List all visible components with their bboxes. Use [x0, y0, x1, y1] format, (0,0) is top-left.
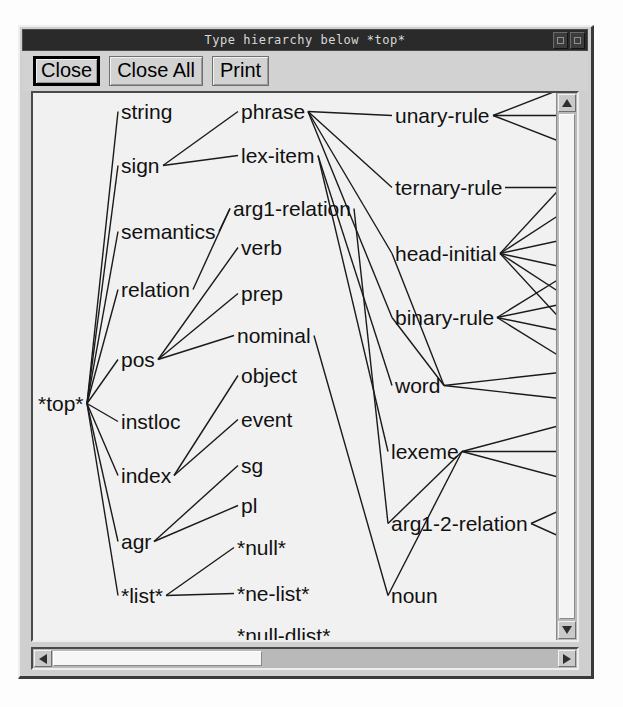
graph-edge — [493, 116, 560, 142]
graph-node-top[interactable]: *top* — [38, 393, 84, 414]
triangle-left-icon — [39, 654, 47, 664]
graph-canvas[interactable]: *top*stringsignsemanticsrelationposinstl… — [33, 93, 560, 640]
graph-edge — [308, 112, 392, 254]
graph-node-sign[interactable]: sign — [121, 155, 160, 176]
graph-edge — [314, 336, 388, 596]
window-titlebar[interactable]: Type hierarchy below *top* — [22, 29, 588, 51]
graph-edge — [493, 93, 560, 116]
maximize-icon — [574, 37, 581, 44]
graph-node-list[interactable]: *list* — [121, 585, 163, 606]
maximize-button[interactable] — [570, 32, 585, 49]
graph-edge — [87, 404, 118, 596]
graph-edge — [87, 166, 118, 404]
graph-node-null-dlist[interactable]: *null-dlist* — [237, 625, 330, 640]
graph-edge — [166, 548, 234, 596]
graph-node-object[interactable]: object — [241, 365, 297, 386]
graph-node-noun[interactable]: noun — [391, 585, 438, 606]
print-button[interactable]: Print — [212, 56, 269, 86]
graph-edge — [158, 336, 234, 360]
graph-node-lexeme[interactable]: lexeme — [391, 441, 459, 462]
graph-node-head-initial[interactable]: head-initial — [395, 243, 497, 264]
graph-node-relation[interactable]: relation — [121, 279, 190, 300]
graph-canvas-frame: *top*stringsignsemanticsrelationposinstl… — [31, 91, 579, 642]
graph-edge — [444, 386, 560, 399]
scroll-left-button[interactable] — [34, 650, 52, 667]
minimize-icon — [557, 37, 564, 44]
graph-node-index[interactable]: index — [121, 465, 171, 486]
graph-edge — [87, 404, 118, 476]
graph-node-phrase[interactable]: phrase — [241, 101, 305, 122]
graph-node-nominal[interactable]: nominal — [237, 325, 311, 346]
graph-edge — [87, 404, 118, 542]
graph-edge — [308, 112, 392, 188]
triangle-down-icon — [562, 626, 572, 634]
graph-edge — [166, 594, 234, 596]
graph-node-unary-rule[interactable]: unary-rule — [395, 105, 490, 126]
horizontal-scrollbar[interactable] — [31, 647, 579, 670]
close-button[interactable]: Close — [33, 56, 100, 86]
type-hierarchy-window: Type hierarchy below *top* Close Close A… — [18, 25, 594, 679]
graph-node-binary-rule[interactable]: binary-rule — [395, 307, 494, 328]
triangle-up-icon — [562, 99, 572, 107]
graph-node-sg[interactable]: sg — [241, 455, 263, 476]
graph-node-arg1-relation[interactable]: arg1-relation — [233, 198, 351, 219]
graph-node-event[interactable]: event — [241, 409, 292, 430]
graph-edge — [462, 452, 560, 478]
graph-node-string[interactable]: string — [121, 101, 172, 122]
graph-edge — [87, 404, 118, 422]
screenshot-root: Type hierarchy below *top* Close Close A… — [0, 0, 623, 707]
scroll-right-button[interactable] — [558, 650, 576, 667]
minimize-button[interactable] — [553, 32, 568, 49]
horizontal-scroll-thumb[interactable] — [53, 651, 262, 666]
graph-edge — [87, 290, 118, 404]
graph-node-prep[interactable]: prep — [241, 283, 283, 304]
graph-node-arg1-2-relation[interactable]: arg1-2-relation — [391, 513, 528, 534]
graph-node-null[interactable]: *null* — [237, 537, 286, 558]
graph-node-ternary-rule[interactable]: ternary-rule — [395, 177, 502, 198]
graph-edge — [462, 426, 560, 452]
graph-node-instloc[interactable]: instloc — [121, 411, 181, 432]
vertical-scroll-thumb[interactable] — [559, 114, 575, 619]
graph-node-semantics[interactable]: semantics — [121, 221, 216, 242]
close-all-button[interactable]: Close All — [109, 56, 203, 86]
toolbar: Close Close All Print — [22, 51, 588, 91]
graph-node-agr[interactable]: agr — [121, 531, 151, 552]
triangle-right-icon — [563, 654, 571, 664]
graph-node-verb[interactable]: verb — [241, 237, 282, 258]
window-title: Type hierarchy below *top* — [205, 33, 406, 47]
graph-node-ne-list[interactable]: *ne-list* — [237, 583, 309, 604]
window-controls — [553, 32, 585, 49]
graph-edge — [308, 112, 392, 116]
vertical-scrollbar[interactable] — [556, 93, 577, 640]
graph-edge — [444, 373, 560, 386]
scroll-down-button[interactable] — [558, 621, 576, 639]
graph-edge — [174, 420, 238, 476]
graph-edge — [174, 376, 238, 476]
graph-node-pos[interactable]: pos — [121, 349, 155, 370]
graph-edge — [354, 209, 388, 524]
scroll-up-button[interactable] — [558, 94, 576, 112]
graph-node-lex-item[interactable]: lex-item — [241, 145, 315, 166]
graph-node-word[interactable]: word — [395, 375, 441, 396]
graph-node-pl[interactable]: pl — [241, 495, 257, 516]
graph-edge — [154, 506, 238, 542]
